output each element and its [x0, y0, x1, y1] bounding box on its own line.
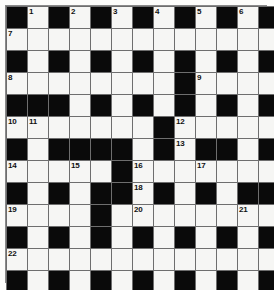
grid-cell-open[interactable] — [70, 95, 90, 116]
grid-cell-open[interactable]: 21 — [238, 205, 258, 226]
grid-cell-open[interactable] — [91, 29, 111, 50]
grid-cell-open[interactable]: 10 — [7, 117, 27, 138]
grid-cell-open[interactable] — [112, 227, 132, 248]
grid-cell-open[interactable] — [217, 29, 237, 50]
grid-cell-open[interactable] — [175, 183, 195, 204]
grid-cell-open[interactable] — [28, 205, 48, 226]
grid-cell-open[interactable] — [175, 205, 195, 226]
grid-cell-open[interactable] — [112, 51, 132, 72]
grid-cell-open[interactable] — [70, 227, 90, 248]
grid-cell-open[interactable] — [238, 73, 258, 94]
grid-cell-open[interactable] — [259, 117, 274, 138]
grid-cell-open[interactable]: 17 — [196, 161, 216, 182]
grid-cell-open[interactable] — [49, 249, 69, 270]
grid-cell-open[interactable] — [112, 95, 132, 116]
grid-cell-open[interactable] — [259, 29, 274, 50]
grid-cell-open[interactable] — [196, 95, 216, 116]
grid-cell-open[interactable] — [91, 249, 111, 270]
grid-cell-open[interactable] — [175, 161, 195, 182]
grid-cell-open[interactable] — [70, 29, 90, 50]
grid-cell-open[interactable] — [70, 73, 90, 94]
grid-cell-open[interactable] — [175, 29, 195, 50]
grid-cell-open[interactable] — [196, 29, 216, 50]
grid-cell-open[interactable] — [154, 205, 174, 226]
grid-cell-open[interactable] — [28, 29, 48, 50]
grid-cell-open[interactable] — [238, 29, 258, 50]
grid-cell-open[interactable] — [238, 249, 258, 270]
grid-cell-open[interactable] — [154, 249, 174, 270]
grid-cell-open[interactable] — [70, 249, 90, 270]
grid-cell-open[interactable]: 8 — [7, 73, 27, 94]
grid-cell-open[interactable] — [238, 227, 258, 248]
grid-cell-open[interactable] — [217, 73, 237, 94]
grid-cell-open[interactable] — [238, 95, 258, 116]
grid-cell-open[interactable] — [28, 271, 48, 290]
grid-cell-open[interactable] — [112, 117, 132, 138]
grid-cell-open[interactable] — [217, 249, 237, 270]
grid-cell-open[interactable] — [154, 271, 174, 290]
grid-cell-open[interactable] — [49, 29, 69, 50]
grid-cell-open[interactable] — [70, 271, 90, 290]
grid-cell-open[interactable] — [259, 161, 274, 182]
grid-cell-open[interactable] — [70, 51, 90, 72]
grid-cell-open[interactable] — [133, 117, 153, 138]
grid-cell-open[interactable] — [112, 271, 132, 290]
grid-cell-open[interactable] — [70, 183, 90, 204]
grid-cell-open[interactable]: 18 — [133, 183, 153, 204]
grid-cell-open[interactable] — [28, 249, 48, 270]
grid-cell-open[interactable]: 13 — [175, 139, 195, 160]
grid-cell-open[interactable] — [49, 117, 69, 138]
grid-cell-open[interactable] — [154, 161, 174, 182]
grid-cell-open[interactable] — [133, 249, 153, 270]
grid-cell-open[interactable] — [112, 249, 132, 270]
grid-cell-open[interactable]: 5 — [196, 7, 216, 28]
grid-cell-open[interactable] — [217, 117, 237, 138]
grid-cell-open[interactable] — [259, 249, 274, 270]
grid-cell-open[interactable] — [154, 95, 174, 116]
grid-cell-open[interactable] — [154, 29, 174, 50]
grid-cell-open[interactable] — [196, 227, 216, 248]
grid-cell-open[interactable] — [112, 73, 132, 94]
grid-cell-open[interactable] — [154, 73, 174, 94]
grid-cell-open[interactable]: 9 — [196, 73, 216, 94]
grid-cell-open[interactable] — [91, 117, 111, 138]
grid-cell-open[interactable]: 16 — [133, 161, 153, 182]
grid-cell-open[interactable]: 11 — [28, 117, 48, 138]
grid-cell-open[interactable]: 6 — [238, 7, 258, 28]
grid-cell-open[interactable] — [70, 117, 90, 138]
grid-cell-open[interactable]: 7 — [7, 29, 27, 50]
grid-cell-open[interactable]: 19 — [7, 205, 27, 226]
grid-cell-open[interactable]: 15 — [70, 161, 90, 182]
grid-cell-open[interactable]: 4 — [154, 7, 174, 28]
grid-cell-open[interactable]: 20 — [133, 205, 153, 226]
grid-cell-open[interactable] — [238, 161, 258, 182]
grid-cell-open[interactable] — [175, 249, 195, 270]
grid-cell-open[interactable] — [91, 161, 111, 182]
grid-cell-open[interactable]: 12 — [175, 117, 195, 138]
grid-cell-open[interactable] — [217, 205, 237, 226]
grid-cell-open[interactable] — [196, 271, 216, 290]
grid-cell-open[interactable] — [133, 29, 153, 50]
grid-cell-open[interactable] — [91, 73, 111, 94]
grid-cell-open[interactable] — [112, 205, 132, 226]
grid-cell-open[interactable] — [49, 73, 69, 94]
grid-cell-open[interactable]: 22 — [7, 249, 27, 270]
grid-cell-open[interactable]: 3 — [112, 7, 132, 28]
grid-cell-open[interactable] — [196, 117, 216, 138]
grid-cell-open[interactable] — [112, 29, 132, 50]
grid-cell-open[interactable] — [49, 161, 69, 182]
grid-cell-open[interactable] — [154, 227, 174, 248]
grid-cell-open[interactable] — [49, 205, 69, 226]
grid-cell-open[interactable] — [196, 205, 216, 226]
grid-cell-open[interactable] — [28, 183, 48, 204]
grid-cell-open[interactable] — [28, 139, 48, 160]
grid-cell-open[interactable]: 1 — [28, 7, 48, 28]
grid-cell-open[interactable] — [238, 139, 258, 160]
grid-cell-open[interactable] — [28, 161, 48, 182]
crossword-grid[interactable]: 12345678910111213141516171819202122 — [6, 6, 274, 290]
grid-cell-open[interactable]: 14 — [7, 161, 27, 182]
grid-cell-open[interactable] — [196, 51, 216, 72]
grid-cell-open[interactable] — [238, 117, 258, 138]
grid-cell-open[interactable] — [28, 73, 48, 94]
grid-cell-open[interactable] — [154, 51, 174, 72]
